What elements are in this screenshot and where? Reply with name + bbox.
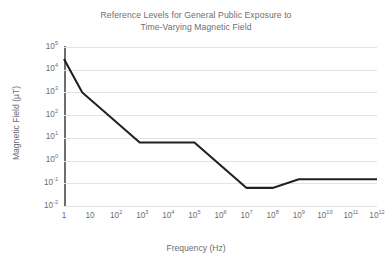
chart-title-line-2: Time-Varying Magnetic Field [0,21,392,33]
x-axis-title: Frequency (Hz) [0,243,392,253]
x-tick-label-7: 107 [234,211,260,220]
y-tick-label-4: 104 [32,64,58,73]
x-tick-label-10: 1010 [312,211,338,220]
y-tick-label-5: 105 [32,42,58,51]
x-tick-label-5: 105 [181,211,207,220]
x-tick-label-3: 103 [129,211,155,220]
y-tick-label-0: 100 [32,155,58,164]
x-tick-label-9: 109 [286,211,312,220]
y-tick-label-1: 101 [32,132,58,141]
x-tick-label-12: 1012 [364,211,390,220]
chart-container: Reference Levels for General Public Expo… [0,0,392,270]
x-tick-label-1: 1 [51,211,77,220]
x-tick-label-6: 106 [208,211,234,220]
gridline-y--2 [64,206,377,207]
x-tick-label-8: 108 [260,211,286,220]
y-tick-label--1: 10-1 [32,178,58,187]
y-tick-label-3: 103 [32,87,58,96]
y-axis-title: Magnetic Field (µT) [11,63,21,183]
x-tick-label-11: 1011 [338,211,364,220]
x-tick-label-1: 10 [77,211,103,220]
x-tick-label-2: 102 [103,211,129,220]
chart-title-line-1: Reference Levels for General Public Expo… [0,9,392,21]
plot-area [64,47,377,206]
y-tick-label--2: 10-2 [32,201,58,210]
chart-title: Reference Levels for General Public Expo… [0,9,392,33]
x-tick-label-4: 104 [155,211,181,220]
y-tick-label-2: 102 [32,110,58,119]
series-line-magnetic-field [64,47,377,206]
